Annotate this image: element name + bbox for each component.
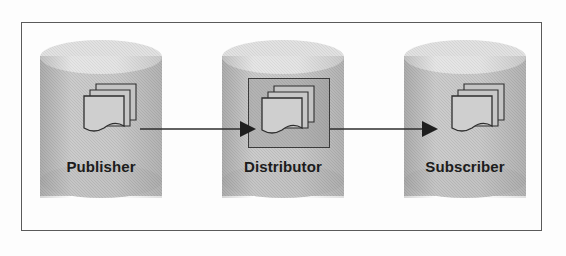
node-label-subscriber: Subscriber xyxy=(404,158,526,175)
document-stack-icon xyxy=(256,84,318,138)
cylinder-top xyxy=(222,40,344,74)
diagram-canvas: Publisher Distributor xyxy=(0,0,566,256)
node-publisher[interactable]: Publisher xyxy=(40,40,162,212)
document-stack-icon xyxy=(446,82,508,136)
node-label-publisher: Publisher xyxy=(40,158,162,175)
replication-diagram: Publisher Distributor xyxy=(0,0,566,256)
node-label-distributor: Distributor xyxy=(222,158,344,175)
node-distributor[interactable]: Distributor xyxy=(222,40,344,212)
cylinder-top xyxy=(40,40,162,74)
document-stack-icon xyxy=(78,82,140,136)
cylinder-top xyxy=(404,40,526,74)
node-subscriber[interactable]: Subscriber xyxy=(404,40,526,212)
